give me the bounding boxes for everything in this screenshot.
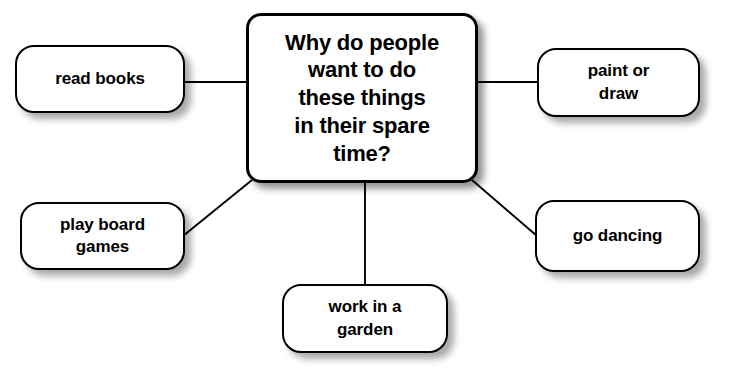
node-work-in-a-garden-label: work in a garden (329, 296, 402, 341)
node-go-dancing-label: go dancing (573, 225, 663, 247)
node-read-books[interactable]: read books (15, 45, 185, 113)
node-paint-or-draw-label: paint or draw (588, 60, 650, 105)
connector-go-dancing (472, 180, 537, 236)
node-read-books-label: read books (55, 68, 145, 90)
central-question-label: Why do people want to do these things in… (285, 29, 439, 168)
central-question-node[interactable]: Why do people want to do these things in… (246, 13, 478, 183)
connector-play-board-games (183, 180, 252, 236)
node-work-in-a-garden[interactable]: work in a garden (282, 284, 448, 353)
mind-map-diagram: Why do people want to do these things in… (0, 0, 741, 379)
node-play-board-games[interactable]: play board games (20, 202, 185, 270)
node-go-dancing[interactable]: go dancing (535, 200, 700, 272)
node-play-board-games-label: play board games (60, 214, 145, 259)
node-paint-or-draw[interactable]: paint or draw (537, 48, 700, 117)
